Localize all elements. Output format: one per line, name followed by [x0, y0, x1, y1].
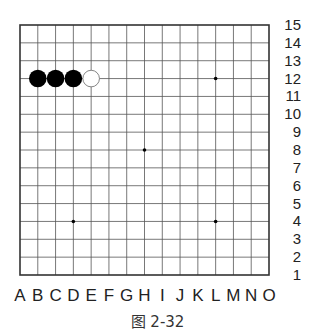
- row-label: 2: [273, 249, 301, 265]
- column-label: B: [29, 287, 47, 305]
- column-label: A: [11, 287, 29, 305]
- column-label: K: [189, 287, 207, 305]
- black-stone-icon: [65, 70, 83, 88]
- row-label: 3: [273, 231, 301, 247]
- row-label: 6: [273, 178, 301, 194]
- star-point-icon: [143, 148, 147, 152]
- row-label: 12: [273, 71, 301, 87]
- row-label: 1: [273, 267, 301, 283]
- row-label: 13: [273, 53, 301, 69]
- figure-caption: 图 2-32: [0, 310, 315, 331]
- column-label: G: [118, 287, 136, 305]
- column-label: C: [47, 287, 65, 305]
- row-label: 9: [273, 124, 301, 140]
- column-label: I: [153, 287, 171, 305]
- column-label: H: [136, 287, 154, 305]
- column-label: F: [100, 287, 118, 305]
- white-stone-icon: [83, 70, 100, 87]
- row-label: 4: [273, 213, 301, 229]
- column-label: N: [242, 287, 260, 305]
- black-stone-icon: [29, 70, 47, 88]
- go-board: [0, 0, 315, 300]
- column-label: J: [171, 287, 189, 305]
- row-label: 14: [273, 35, 301, 51]
- row-label: 11: [273, 88, 301, 104]
- column-label: M: [224, 287, 242, 305]
- row-label: 15: [273, 17, 301, 33]
- star-point-icon: [72, 220, 76, 224]
- row-label: 8: [273, 142, 301, 158]
- column-label: L: [207, 287, 225, 305]
- row-label: 10: [273, 106, 301, 122]
- column-label: O: [260, 287, 278, 305]
- black-stone-icon: [47, 70, 65, 88]
- row-label: 5: [273, 196, 301, 212]
- star-point-icon: [214, 77, 218, 81]
- column-label: D: [64, 287, 82, 305]
- row-label: 7: [273, 160, 301, 176]
- column-label: E: [82, 287, 100, 305]
- star-point-icon: [214, 220, 218, 224]
